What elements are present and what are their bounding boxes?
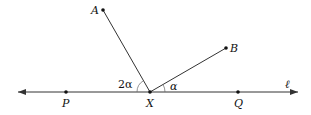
segment-XB [150,48,226,92]
angle-arc-2alpha [137,81,144,92]
label-X: X [145,97,155,110]
point-P [64,90,68,94]
label-B: B [229,42,238,55]
point-X [148,90,152,94]
point-B [224,46,228,50]
label-Q: Q [234,97,243,110]
label-angle-alpha: α [170,80,178,93]
point-Q [236,90,240,94]
label-A: A [90,4,99,17]
point-A [101,8,105,12]
label-P: P [61,97,70,110]
label-angle-2alpha: 2α [118,78,133,91]
label-line-l: ℓ [285,78,290,91]
angle-arc-alpha [163,85,165,93]
geometry-diagram: A B X P Q ℓ 2α α [0,0,311,115]
